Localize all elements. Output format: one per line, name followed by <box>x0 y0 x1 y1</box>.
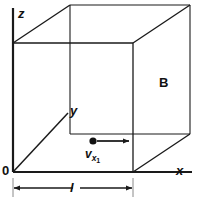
velocity-label: vx1 <box>85 148 100 164</box>
velocity-subscript-number: 1 <box>96 157 100 164</box>
body-label-b: B <box>159 76 168 89</box>
y-axis-label: y <box>70 104 77 117</box>
origin-label: 0 <box>2 164 9 177</box>
velocity-marker <box>89 137 129 144</box>
length-label: l <box>70 181 74 194</box>
y-axis-line <box>13 113 68 172</box>
diagram-canvas <box>0 0 198 210</box>
physics-diagram-figure: z y x 0 B l vx1 <box>0 0 198 210</box>
z-axis-label: z <box>18 7 25 20</box>
velocity-base-symbol: v <box>85 147 92 161</box>
velocity-subscript: x1 <box>92 153 100 163</box>
coordinate-axes <box>13 8 192 172</box>
particle-dot <box>89 137 96 144</box>
x-axis-label: x <box>176 164 183 177</box>
box-back-face <box>70 5 190 134</box>
depth-edge-top-right <box>133 5 190 43</box>
